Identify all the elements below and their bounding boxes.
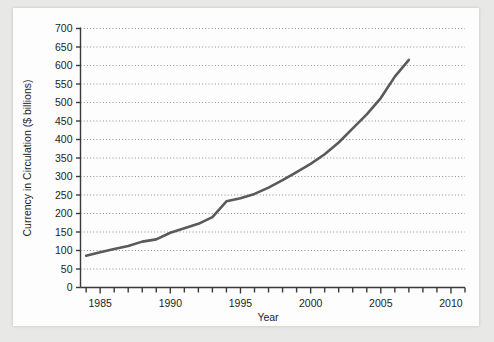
y-tick-label-0: 0 bbox=[67, 281, 73, 293]
y-axis-title: Currency in Circulation ($ billions) bbox=[21, 80, 33, 237]
x-tick-label-2010: 2010 bbox=[439, 297, 463, 309]
x-tick-label-1990: 1990 bbox=[159, 297, 183, 309]
y-tick-label-50: 50 bbox=[61, 263, 73, 275]
x-tick-label-2005: 2005 bbox=[369, 297, 393, 309]
x-tick-label-1985: 1985 bbox=[88, 297, 112, 309]
y-tick-label-450: 450 bbox=[55, 115, 73, 127]
y-tick-label-350: 350 bbox=[55, 152, 73, 164]
y-tick-label-250: 250 bbox=[55, 189, 73, 201]
y-axis: 0501001502002503003504004505005506006507… bbox=[55, 22, 81, 293]
x-axis: 198519901995200020052010 bbox=[81, 288, 466, 309]
y-tick-label-550: 550 bbox=[55, 78, 73, 90]
gridlines bbox=[81, 29, 466, 270]
x-axis-title: Year bbox=[257, 311, 279, 323]
y-tick-label-600: 600 bbox=[55, 59, 73, 71]
y-tick-label-650: 650 bbox=[55, 41, 73, 53]
y-tick-label-700: 700 bbox=[55, 22, 73, 34]
y-tick-label-400: 400 bbox=[55, 133, 73, 145]
x-tick-label-2000: 2000 bbox=[299, 297, 323, 309]
x-tick-label-1995: 1995 bbox=[229, 297, 253, 309]
chart-figure: 0501001502002503003504004505005506006507… bbox=[0, 0, 494, 342]
y-tick-label-150: 150 bbox=[55, 226, 73, 238]
y-tick-label-200: 200 bbox=[55, 207, 73, 219]
y-tick-label-500: 500 bbox=[55, 96, 73, 108]
y-tick-label-300: 300 bbox=[55, 170, 73, 182]
line-chart-svg: 0501001502002503003504004505005506006507… bbox=[0, 0, 494, 342]
y-tick-label-100: 100 bbox=[55, 244, 73, 256]
